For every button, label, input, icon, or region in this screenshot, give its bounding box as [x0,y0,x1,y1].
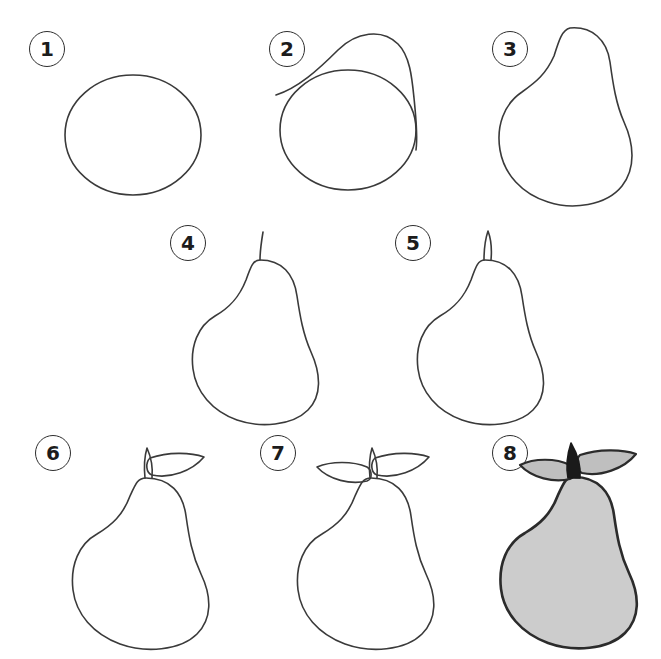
step-panel-3: 3 [470,0,661,215]
leaf-right [147,453,204,476]
neck-dome-guide [276,34,417,150]
construction-circle [65,75,201,195]
step-5-drawing [385,218,590,423]
step-panel-2: 2 [240,0,470,215]
pear-outline [499,28,632,206]
step-8-drawing [470,425,661,645]
leaf-left [317,463,371,483]
step-panel-5: 5 [385,218,590,423]
pear-outline [192,260,318,425]
step-2-drawing [240,0,470,215]
leaf-right-filled [577,450,636,474]
stem-filled [567,443,580,478]
step-panel-8: 8 [470,425,661,645]
pear-outline [297,478,433,649]
pear-outline [72,478,208,649]
stem-outline [484,231,491,260]
construction-circle [280,70,416,190]
pear-body-filled [500,477,636,648]
step-7-drawing [245,425,460,645]
leaf-left-filled [520,460,574,481]
drawing-tutorial-sheet: 1 2 3 4 5 [0,0,661,659]
step-panel-6: 6 [20,425,235,645]
step-1-drawing [0,0,230,215]
pear-outline [417,260,543,425]
step-4-drawing [160,218,365,423]
step-panel-4: 4 [160,218,365,423]
step-panel-1: 1 [0,0,230,215]
step-panel-7: 7 [245,425,460,645]
step-6-drawing [20,425,235,645]
step-3-drawing [470,0,661,215]
stem-line [260,232,263,260]
leaf-right [372,453,429,476]
